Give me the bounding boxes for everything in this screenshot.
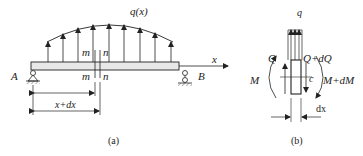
caption-b: (b) — [291, 135, 303, 147]
figure-a: m n m n A B x x+dx (a) q(x — [10, 5, 228, 147]
element-load-arrows — [291, 30, 299, 60]
load-arrows — [48, 24, 171, 62]
section-bottom-n: n — [103, 70, 109, 82]
support-label-b: B — [198, 70, 205, 82]
dimension-label: x+dx — [54, 99, 76, 110]
point-c-label: c — [309, 73, 314, 84]
pin-support-icon — [26, 71, 40, 85]
section-top-m: m — [82, 46, 90, 58]
section-top-n: n — [103, 46, 109, 58]
beam — [31, 62, 179, 70]
element-load-label: q — [297, 7, 302, 18]
support-label-a: A — [10, 70, 18, 82]
distributed-load-curve — [47, 25, 173, 42]
load-label: q(x) — [130, 5, 148, 18]
x-axis-label: x — [211, 53, 217, 65]
caption-a: (a) — [108, 135, 119, 147]
beam-diagram: m n m n A B x x+dx (a) q(x — [0, 0, 363, 156]
dx-label: dx — [316, 103, 326, 114]
moment-right-label: M+dM — [322, 74, 355, 86]
section-bottom-m: m — [82, 70, 90, 82]
figure-b: q Q Q+dQ c M M+dM dx (b) — [249, 7, 355, 147]
roller-support-icon — [178, 71, 192, 87]
moment-left-label: M — [249, 74, 260, 86]
